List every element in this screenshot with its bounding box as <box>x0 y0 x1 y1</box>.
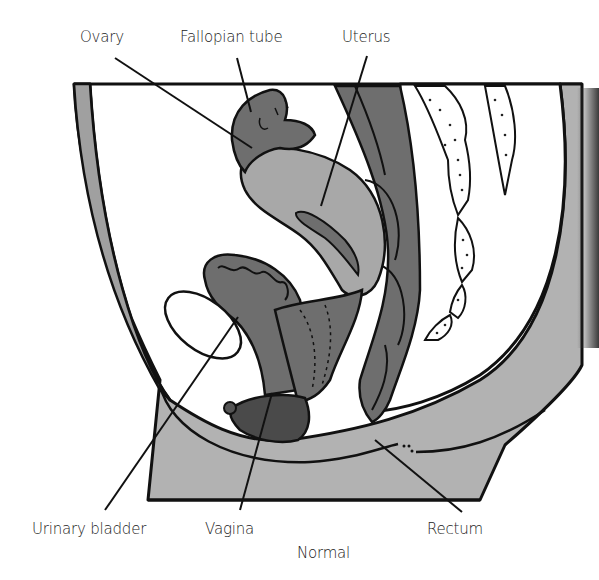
label-vagina: Vagina <box>205 520 254 538</box>
label-ovary: Ovary <box>80 28 124 46</box>
label-fallopian-tube: Fallopian tube <box>180 28 282 46</box>
label-urinary-bladder: Urinary bladder <box>32 520 146 538</box>
pelvic-anatomy-diagram <box>0 0 599 580</box>
label-uterus: Uterus <box>342 28 390 46</box>
figure-caption: Normal <box>297 544 350 562</box>
label-rectum: Rectum <box>427 520 483 538</box>
scan-edge-shadow <box>577 88 599 348</box>
